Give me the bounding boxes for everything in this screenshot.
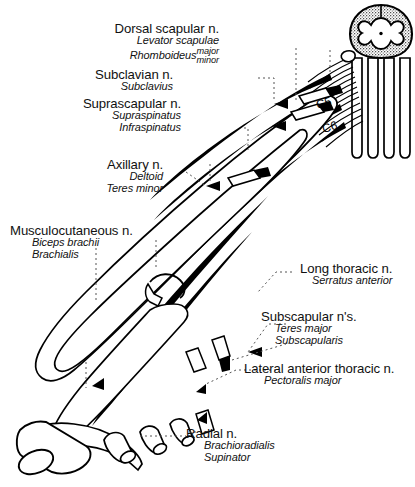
label-radial: Radial n. Brachioradialis Supinator bbox=[186, 427, 275, 463]
musculocutaneous-muscle-1: Biceps brachii bbox=[10, 237, 133, 248]
dorsal-scapular-nerve-label: Dorsal scapular n. bbox=[115, 22, 219, 35]
long-thoracic-nerve-label: Long thoracic n. bbox=[300, 262, 392, 275]
subscapular-nerve-label: Subscapular n's. bbox=[261, 310, 356, 323]
rhomboideus-minor: minor bbox=[197, 56, 219, 66]
subclavian-nerve-label: Subclavian n. bbox=[95, 68, 173, 81]
cord-column bbox=[352, 58, 410, 158]
spinal-cord-cross-section bbox=[350, 5, 412, 58]
long-thoracic-muscle-1: Serratus anterior bbox=[300, 275, 392, 286]
nerve-sheath-outlines bbox=[30, 95, 337, 470]
label-axillary: Axillary n. Deltoid Teres minor bbox=[106, 158, 163, 194]
axillary-nerve-label: Axillary n. bbox=[106, 158, 163, 171]
label-dorsal-scapular: Dorsal scapular n. Levator scapulae Rhom… bbox=[115, 22, 219, 66]
musculocutaneous-muscle-2: Brachialis bbox=[10, 249, 133, 260]
label-suprascapular: Suprascapular n. Supraspinatus Infraspin… bbox=[83, 97, 181, 133]
label-musculocutaneous: Musculocutaneous n. Biceps brachii Brach… bbox=[10, 224, 133, 260]
axillary-muscle-1: Deltoid bbox=[106, 171, 163, 182]
axillary-muscle-2: Teres minor bbox=[106, 183, 163, 194]
lateral-anterior-thoracic-muscle-1: Pectoralis major bbox=[244, 375, 394, 386]
rhomboideus-variants: majorminor bbox=[197, 47, 219, 66]
subscapular-muscle-1: Teres major bbox=[261, 323, 356, 334]
dorsal-scapular-muscle-1: Levator scapulae bbox=[115, 35, 219, 46]
subclavian-muscle-1: Subclavius bbox=[95, 81, 173, 92]
dorsal-root-ganglion bbox=[341, 51, 355, 62]
label-long-thoracic: Long thoracic n. Serratus anterior bbox=[300, 262, 392, 287]
suprascapular-nerve-label: Suprascapular n. bbox=[83, 97, 181, 110]
dorsal-scapular-muscle-2: Rhomboideusmajorminor bbox=[115, 47, 219, 66]
brachial-plexus-figure: Dorsal scapular n. Levator scapulae Rhom… bbox=[0, 0, 415, 487]
suprascapular-muscle-2: Infraspinatus bbox=[83, 122, 181, 133]
radial-muscle-1: Brachioradialis bbox=[186, 440, 275, 451]
rhomboideus-label: Rhomboideus bbox=[130, 49, 197, 61]
suprascapular-muscle-1: Supraspinatus bbox=[83, 110, 181, 121]
label-lateral-anterior-thoracic: Lateral anterior thoracic n. Pectoralis … bbox=[244, 362, 394, 387]
lateral-anterior-thoracic-nerve-label: Lateral anterior thoracic n. bbox=[244, 362, 394, 375]
radial-muscle-2: Supinator bbox=[186, 452, 275, 463]
subscapular-muscle-2: Subscapularis bbox=[261, 335, 356, 346]
label-subclavian: Subclavian n. Subclavius bbox=[95, 68, 173, 93]
radial-nerve-label: Radial n. bbox=[186, 427, 275, 440]
label-subscapular: Subscapular n's. Teres major Subscapular… bbox=[261, 310, 356, 346]
musculocutaneous-nerve-label: Musculocutaneous n. bbox=[10, 224, 133, 237]
